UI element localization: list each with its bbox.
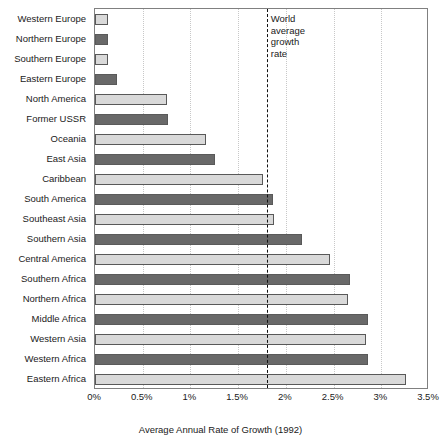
category-label-eastern-europe: Eastern Europe xyxy=(20,73,86,84)
world-average-line xyxy=(267,9,268,388)
category-label-south-america: South America xyxy=(24,193,86,204)
x-tick-2.5%: 2.5% xyxy=(322,391,344,402)
category-label-southeast-asia: Southeast Asia xyxy=(23,213,86,224)
bar-row xyxy=(95,149,427,169)
x-tick-1.5%: 1.5% xyxy=(226,391,248,402)
growth-rate-bar-chart: Western EuropeNorthern EuropeSouthern Eu… xyxy=(0,0,441,435)
bar-row xyxy=(95,270,427,290)
bar-row xyxy=(95,89,427,109)
bar-western-africa xyxy=(95,354,368,365)
bar-northern-africa xyxy=(95,294,348,305)
bar-southeast-asia xyxy=(95,214,274,225)
bar-row xyxy=(95,189,427,209)
bar-western-asia xyxy=(95,334,366,345)
category-label-north-america: North America xyxy=(26,93,86,104)
bar-rows xyxy=(95,9,427,388)
annotation-line: rate xyxy=(271,48,305,60)
category-label-northern-africa: Northern Africa xyxy=(23,293,86,304)
bar-middle-africa xyxy=(95,314,368,325)
bar-row xyxy=(95,310,427,330)
bar-caribbean xyxy=(95,174,263,185)
category-axis-labels: Western EuropeNorthern EuropeSouthern Eu… xyxy=(0,8,90,389)
bar-western-europe xyxy=(95,14,108,25)
bar-oceania xyxy=(95,134,206,145)
x-tick-2%: 2% xyxy=(278,391,292,402)
bar-row xyxy=(95,290,427,310)
category-label-oceania: Oceania xyxy=(51,133,86,144)
bar-row xyxy=(95,169,427,189)
category-label-western-europe: Western Europe xyxy=(18,13,86,24)
bar-south-america xyxy=(95,194,273,205)
bar-row xyxy=(95,230,427,250)
x-tick-3.5%: 3.5% xyxy=(417,391,439,402)
plot-area: Worldaveragegrowthrate xyxy=(94,8,428,389)
bar-north-america xyxy=(95,94,167,105)
annotation-line: average xyxy=(271,25,305,37)
category-label-former-ussr: Former USSR xyxy=(26,113,86,124)
bar-former-ussr xyxy=(95,114,168,125)
x-tick-3%: 3% xyxy=(373,391,387,402)
category-label-western-asia: Western Asia xyxy=(30,333,86,344)
bar-row xyxy=(95,9,427,29)
bar-southern-asia xyxy=(95,234,302,245)
bar-row xyxy=(95,370,427,390)
category-label-western-africa: Western Africa xyxy=(24,353,86,364)
category-label-southern-europe: Southern Europe xyxy=(14,53,86,64)
bar-east-asia xyxy=(95,154,215,165)
bar-eastern-europe xyxy=(95,74,117,85)
bar-southern-africa xyxy=(95,274,350,285)
x-tick-1%: 1% xyxy=(183,391,197,402)
bar-row xyxy=(95,330,427,350)
bar-row xyxy=(95,129,427,149)
x-tick-0%: 0% xyxy=(87,391,101,402)
bar-row xyxy=(95,69,427,89)
bar-eastern-africa xyxy=(95,374,406,385)
bar-row xyxy=(95,210,427,230)
annotation-line: growth xyxy=(271,36,305,48)
bar-row xyxy=(95,29,427,49)
x-axis-ticks: 0%0.5%1%1.5%2%2.5%3%3.5% xyxy=(94,391,428,405)
bar-row xyxy=(95,250,427,270)
category-label-central-america: Central America xyxy=(18,253,86,264)
category-label-eastern-africa: Eastern Africa xyxy=(27,373,86,384)
bar-northern-europe xyxy=(95,34,108,45)
world-average-annotation: Worldaveragegrowthrate xyxy=(271,13,305,59)
x-axis-title: Average Annual Rate of Growth (1992) xyxy=(0,424,441,435)
bar-southern-europe xyxy=(95,54,108,65)
category-label-northern-europe: Northern Europe xyxy=(16,33,86,44)
annotation-line: World xyxy=(271,13,305,25)
category-label-east-asia: East Asia xyxy=(46,153,86,164)
x-tick-0.5%: 0.5% xyxy=(131,391,153,402)
bar-row xyxy=(95,350,427,370)
category-label-southern-africa: Southern Africa xyxy=(21,273,86,284)
bar-row xyxy=(95,109,427,129)
category-label-southern-asia: Southern Asia xyxy=(27,233,86,244)
category-label-middle-africa: Middle Africa xyxy=(32,313,86,324)
bar-row xyxy=(95,49,427,69)
category-label-caribbean: Caribbean xyxy=(42,173,86,184)
bar-central-america xyxy=(95,254,330,265)
